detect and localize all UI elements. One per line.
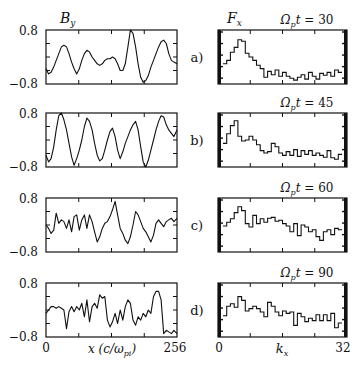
ytick-top: 0.8 [19, 107, 38, 121]
plot-frame [46, 113, 177, 167]
by-line-plot: 0.8−0.8 [9, 107, 177, 174]
left-edge [218, 30, 221, 84]
fx-header: Fx [226, 10, 242, 28]
fx-steps [223, 40, 342, 80]
time-label: Ωpt = 60 [280, 181, 334, 197]
left-edge [218, 198, 221, 252]
right-edge [344, 30, 347, 84]
ytick-bottom: −0.8 [9, 160, 38, 174]
by-line-plot: 0.8−0.8 [9, 192, 177, 259]
left-xlabel: x (c/ωpi) [88, 342, 137, 358]
plot-frame [218, 283, 347, 337]
fx-steps [223, 207, 342, 241]
ytick-top: 0.8 [19, 192, 38, 206]
left-xtick-0: 0 [42, 341, 50, 355]
panel-label: c) [191, 218, 203, 233]
fx-histogram [218, 283, 347, 337]
by-header: By [59, 10, 76, 28]
panel-label: a) [191, 50, 204, 65]
by-line-plot: 0.8−0.8 [9, 277, 177, 344]
fx-histogram [218, 30, 347, 84]
ytick-bottom: −0.8 [9, 77, 38, 91]
right-xlabel: kx [276, 341, 289, 358]
by-trace [46, 291, 177, 333]
fx-steps [223, 121, 342, 159]
panel-row-3: 0.8−0.8d)Ωpt = 90 [9, 266, 347, 344]
left-edge [218, 283, 221, 337]
by-trace [46, 201, 177, 243]
ytick-bottom: −0.8 [9, 330, 38, 344]
right-xtick-0: 0 [215, 341, 223, 355]
right-edge [344, 113, 347, 167]
right-edge [344, 283, 347, 337]
ytick-top: 0.8 [19, 277, 38, 291]
plot-frame [46, 30, 177, 84]
right-xtick-32: 32 [335, 341, 350, 355]
panel-label: b) [190, 133, 203, 148]
left-xtick-256: 256 [164, 341, 187, 355]
ytick-top: 0.8 [19, 24, 38, 38]
time-label: Ωpt = 30 [280, 13, 334, 29]
left-edge [218, 113, 221, 167]
plot-frame [218, 198, 347, 252]
fx-histogram [218, 113, 347, 167]
by-line-plot: 0.8−0.8 [9, 24, 177, 91]
fx-steps [223, 297, 342, 328]
by-trace [46, 113, 177, 167]
panel-label: d) [190, 303, 203, 318]
ytick-bottom: −0.8 [9, 245, 38, 259]
figure: By Fx 0.8−0.8a)Ωpt = 300.8−0.8b)Ωpt = 45… [0, 0, 360, 367]
fx-histogram [218, 198, 347, 252]
panel-row-1: 0.8−0.8b)Ωpt = 45 [9, 96, 347, 174]
time-label: Ωpt = 90 [280, 266, 334, 282]
by-trace [46, 30, 177, 82]
time-label: Ωpt = 45 [280, 96, 334, 112]
right-edge [344, 198, 347, 252]
panel-row-2: 0.8−0.8c)Ωpt = 60 [9, 181, 347, 259]
